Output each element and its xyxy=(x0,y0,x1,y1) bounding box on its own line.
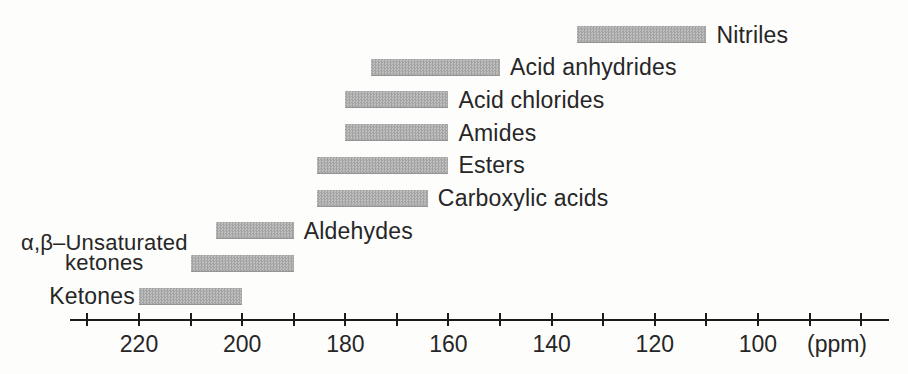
x-axis-line xyxy=(70,319,889,321)
x-axis-tick-label-180: 180 xyxy=(310,331,380,358)
ppm-unit-label: (ppm) xyxy=(792,331,882,358)
bar-label-esters: Esters xyxy=(458,152,524,179)
bar-label-unsaturated-ketones: α,β–Unsaturatedketones xyxy=(21,233,188,273)
x-axis-tick-170 xyxy=(396,313,398,326)
bar-label-acid-chlorides: Acid chlorides xyxy=(458,86,604,113)
x-axis-tick-label-120: 120 xyxy=(620,331,690,358)
x-axis-tick-90 xyxy=(809,313,811,326)
bar-label-aldehydes: Aldehydes xyxy=(304,217,413,244)
bar-label-ketones: Ketones xyxy=(49,283,135,310)
x-axis-tick-100 xyxy=(757,313,759,326)
bar-label-acid-anhydrides: Acid anhydrides xyxy=(510,54,677,81)
x-axis-tick-label-140: 140 xyxy=(517,331,587,358)
bar-acid-anhydrides xyxy=(371,59,500,76)
x-axis-tick-190 xyxy=(293,313,295,326)
x-axis-tick-130 xyxy=(602,313,604,326)
x-axis-tick-150 xyxy=(499,313,501,326)
x-axis-tick-200 xyxy=(241,313,243,326)
x-axis-tick-80 xyxy=(860,313,862,326)
bar-label-carboxylic-acids: Carboxylic acids xyxy=(438,185,609,212)
x-axis-tick-120 xyxy=(654,313,656,326)
x-axis-tick-110 xyxy=(705,313,707,326)
x-axis-tick-180 xyxy=(344,313,346,326)
x-axis-tick-230 xyxy=(86,313,88,326)
x-axis-tick-160 xyxy=(447,313,449,326)
x-axis-tick-label-160: 160 xyxy=(413,331,483,358)
bar-nitriles xyxy=(577,26,706,43)
nmr-shift-range-chart: 220200180160140120100 NitrilesAcid anhyd… xyxy=(0,0,908,374)
x-axis-tick-210 xyxy=(190,313,192,326)
bar-label-line: ketones xyxy=(21,253,188,273)
bar-label-amides: Amides xyxy=(458,119,536,146)
bar-amides xyxy=(345,124,448,141)
bar-carboxylic-acids xyxy=(317,190,428,207)
bar-ketones xyxy=(139,288,242,305)
x-axis-tick-label-100: 100 xyxy=(723,331,793,358)
bar-esters xyxy=(317,157,449,174)
bar-acid-chlorides xyxy=(345,91,448,108)
x-axis-tick-220 xyxy=(138,313,140,326)
x-axis-tick-label-200: 200 xyxy=(207,331,277,358)
bar-unsaturated-ketones xyxy=(191,255,294,272)
x-axis-tick-label-220: 220 xyxy=(104,331,174,358)
x-axis-tick-140 xyxy=(551,313,553,326)
bar-label-nitriles: Nitriles xyxy=(716,21,788,48)
bar-aldehydes xyxy=(216,222,293,239)
